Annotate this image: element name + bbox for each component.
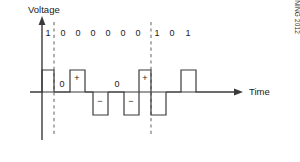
substitution-boundary-group (54, 22, 151, 136)
bit-label-2: 0 (58, 29, 68, 38)
figure-canvas: Voltage Time 1 0 0 0 0 0 0 1 0 1 0 + − 0… (0, 0, 300, 162)
bit-label-8: 1 (152, 29, 162, 38)
waveform-svg (0, 0, 300, 162)
bit-label-4: 0 (88, 29, 98, 38)
bit-label-7: 0 (133, 29, 143, 38)
zero-mark-2: 0 (112, 80, 122, 89)
y-axis-label: Voltage (28, 5, 60, 15)
x-axis-label: Time (249, 87, 270, 97)
voltage-axis-arrowhead (39, 16, 46, 25)
waveform-pulse-bit-8 (151, 92, 166, 115)
bit-label-5: 0 (103, 29, 113, 38)
bit-label-6: 0 (118, 29, 128, 38)
bit-label-9: 0 (167, 29, 177, 38)
bit-label-1: 1 (43, 29, 53, 38)
waveform-pulse-bit-1 (30, 70, 54, 92)
bit-label-10: 1 (183, 29, 193, 38)
minus-sign-1: − (95, 97, 105, 106)
copyright-notice: © CENGAGE LEARNING 2012 (294, 0, 300, 34)
zero-mark-1: 0 (57, 80, 67, 89)
plus-sign-1: + (72, 74, 82, 83)
waveform-pulse-bit-10 (166, 70, 236, 92)
plus-sign-2: + (140, 74, 150, 83)
minus-sign-2: − (126, 97, 136, 106)
bit-label-3: 0 (73, 29, 83, 38)
